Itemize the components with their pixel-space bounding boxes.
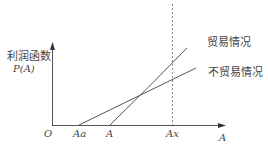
y-axis-label-cn: 利润函数 <box>7 51 51 62</box>
tick-label-a: A <box>106 129 113 139</box>
profit-function-diagram: 利润函数 P(A) O Aa A Ax A 贸易情况 不贸易情况 <box>0 0 268 146</box>
trade-curve <box>110 48 187 125</box>
y-axis-arrow-icon <box>50 42 55 50</box>
x-axis-arrow-icon <box>218 123 226 128</box>
tick-label-aa: Aa <box>73 129 86 139</box>
y-axis-label-fn: P(A) <box>13 64 35 74</box>
origin-label: O <box>44 129 52 139</box>
no-trade-curve-label: 不贸易情况 <box>208 67 263 78</box>
no-trade-curve <box>79 68 196 125</box>
tick-label-ax: Ax <box>166 129 179 139</box>
trade-curve-label: 贸易情况 <box>207 37 251 48</box>
x-axis-label: A <box>219 133 226 143</box>
